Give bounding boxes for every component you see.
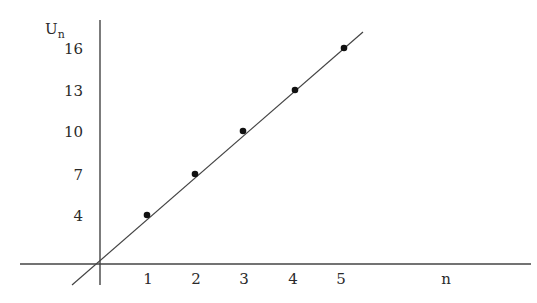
y-tick-label: 16 (64, 40, 83, 58)
data-point-4 (292, 87, 299, 94)
x-tick-label: 1 (143, 270, 153, 288)
y-axis-label: Un (45, 20, 65, 41)
x-axis-label: n (441, 270, 451, 288)
data-point-2 (192, 171, 199, 178)
x-tick-label: 2 (191, 270, 201, 288)
x-tick-label: 4 (288, 270, 298, 288)
fitted-line (72, 32, 363, 285)
y-tick-label: 7 (73, 166, 83, 184)
data-point-3 (240, 128, 247, 135)
y-tick-label: 13 (64, 82, 83, 100)
chart-canvas: Un 16 13 10 7 4 1 2 3 4 5 n (0, 0, 537, 303)
x-tick-label: 5 (336, 270, 346, 288)
data-point-5 (341, 45, 348, 52)
y-tick-label: 10 (64, 123, 83, 141)
y-tick-label: 4 (73, 207, 83, 225)
x-tick-label: 3 (239, 270, 249, 288)
data-point-1 (144, 212, 151, 219)
